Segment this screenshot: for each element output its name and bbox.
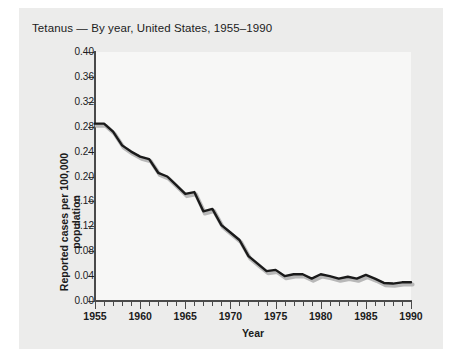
y-tick-label: 0.36 bbox=[58, 72, 94, 82]
y-tick-label-wrap: 0.36 bbox=[48, 72, 94, 82]
x-tick-mark-minor bbox=[221, 302, 222, 306]
x-tick-label: 1985 bbox=[346, 311, 386, 322]
x-axis-title: Year bbox=[95, 327, 411, 339]
x-tick-mark-major bbox=[140, 302, 141, 309]
x-tick-mark-minor bbox=[339, 302, 340, 306]
x-tick-mark-minor bbox=[357, 302, 358, 306]
y-tick-label-wrap: 0.32 bbox=[48, 97, 94, 107]
x-tick-label: 1990 bbox=[391, 311, 431, 322]
y-tick-label-wrap: 0.40 bbox=[48, 47, 94, 57]
y-tick-label: 0.40 bbox=[58, 47, 94, 57]
y-tick-label: 0.32 bbox=[58, 97, 94, 107]
x-tick-mark-minor bbox=[239, 302, 240, 306]
x-tick-mark-minor bbox=[267, 302, 268, 306]
x-tick-mark-major bbox=[230, 302, 231, 309]
x-tick-mark-minor bbox=[212, 302, 213, 306]
x-tick-mark-minor bbox=[384, 302, 385, 306]
x-tick-label: 1960 bbox=[120, 311, 160, 322]
y-axis-title: Reported cases per 100,000 population bbox=[58, 132, 82, 312]
x-tick-mark-minor bbox=[131, 302, 132, 306]
x-tick-mark-minor bbox=[402, 302, 403, 306]
x-tick-mark-minor bbox=[312, 302, 313, 306]
y-tick-label: 0.28 bbox=[58, 122, 94, 132]
x-tick-mark-minor bbox=[104, 302, 105, 306]
y-axis-title-holder: Reported cases per 100,000 population bbox=[42, 50, 43, 51]
x-tick-mark-major bbox=[366, 302, 367, 309]
chart-title: Tetanus — By year, United States, 1955–1… bbox=[32, 22, 272, 34]
x-tick-mark-minor bbox=[285, 302, 286, 306]
x-tick-mark-minor bbox=[258, 302, 259, 306]
x-tick-mark-major bbox=[185, 302, 186, 309]
x-tick-mark-major bbox=[95, 302, 96, 309]
x-tick-mark-minor bbox=[176, 302, 177, 306]
x-tick-label: 1970 bbox=[210, 311, 250, 322]
x-tick-mark-major bbox=[276, 302, 277, 309]
x-tick-mark-minor bbox=[158, 302, 159, 306]
x-tick-mark-minor bbox=[348, 302, 349, 306]
y-axis-line bbox=[94, 51, 96, 302]
x-tick-mark-major bbox=[411, 302, 412, 309]
x-tick-mark-minor bbox=[167, 302, 168, 306]
x-tick-mark-minor bbox=[149, 302, 150, 306]
x-tick-mark-minor bbox=[113, 302, 114, 306]
x-tick-label: 1980 bbox=[301, 311, 341, 322]
x-tick-mark-minor bbox=[330, 302, 331, 306]
x-tick-mark-minor bbox=[122, 302, 123, 306]
x-tick-mark-major bbox=[321, 302, 322, 309]
x-tick-label: 1955 bbox=[75, 311, 115, 322]
x-tick-mark-minor bbox=[203, 302, 204, 306]
x-tick-mark-minor bbox=[375, 302, 376, 306]
x-axis-line bbox=[94, 300, 412, 302]
x-tick-label: 1965 bbox=[165, 311, 205, 322]
x-tick-mark-minor bbox=[194, 302, 195, 306]
plot-area bbox=[95, 52, 411, 301]
x-tick-mark-minor bbox=[303, 302, 304, 306]
x-tick-label: 1975 bbox=[256, 311, 296, 322]
x-tick-mark-minor bbox=[393, 302, 394, 306]
x-tick-mark-minor bbox=[294, 302, 295, 306]
figure-canvas: Tetanus — By year, United States, 1955–1… bbox=[0, 0, 451, 357]
y-tick-label-wrap: 0.28 bbox=[48, 122, 94, 132]
x-tick-mark-minor bbox=[248, 302, 249, 306]
